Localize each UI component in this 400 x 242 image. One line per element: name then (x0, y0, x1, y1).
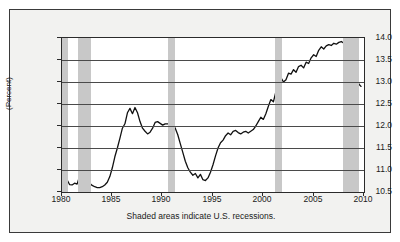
x-tick-label: 2005 (293, 195, 333, 204)
y-axis-label: (Percent) (4, 77, 13, 110)
x-tick-label: 1995 (192, 195, 232, 204)
gridline (62, 126, 364, 127)
x-tick-label: 2000 (242, 195, 282, 204)
x-tick-label: 1985 (91, 195, 131, 204)
recession-band (275, 38, 282, 192)
recession-band (168, 38, 175, 192)
x-tick-label: 1990 (141, 195, 181, 204)
gridline (62, 60, 364, 61)
gridline (62, 148, 364, 149)
x-tick-label: 2010 (343, 195, 383, 204)
chart-caption: Shaded areas indicate U.S. recessions. (10, 211, 392, 221)
figure-frame: (Percent) 14.0 13.5 13.0 12.5 12.0 11.5 … (9, 9, 391, 233)
recession-band (62, 38, 68, 192)
recession-band (343, 38, 359, 192)
recession-band (78, 38, 92, 192)
data-series-line (62, 38, 364, 192)
plot-area (61, 37, 365, 193)
x-tick-label: 1980 (41, 195, 81, 204)
plot-wrapper: (Percent) 14.0 13.5 13.0 12.5 12.0 11.5 … (10, 10, 392, 234)
gridline (62, 82, 364, 83)
gridline (62, 104, 364, 105)
gridline (62, 170, 364, 171)
